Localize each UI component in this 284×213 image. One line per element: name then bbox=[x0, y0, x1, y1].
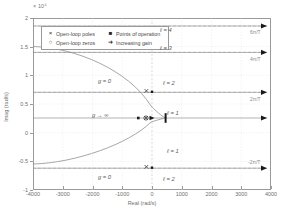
square-icon: ■ bbox=[105, 29, 116, 38]
legend-entry-open-loop-zeros: ○ Open-loop zeros bbox=[45, 38, 105, 47]
annotation-gain-zero-upper: g = 0 bbox=[98, 78, 111, 84]
annotation-gain-infinity: g → ∞ bbox=[92, 112, 108, 118]
annotation-l-equals-3: ℓ = 3 bbox=[160, 45, 172, 51]
legend-label: Points of operation bbox=[116, 31, 160, 37]
x-tick-label: 3000 bbox=[235, 191, 247, 197]
y-tick bbox=[30, 161, 33, 162]
operating-point-square bbox=[137, 117, 140, 120]
y-axis-title: Imag (rad/s) bbox=[3, 77, 9, 137]
increasing-gain-arrowheads bbox=[261, 23, 267, 170]
x-tick-label: -1000 bbox=[115, 191, 129, 197]
y-tick bbox=[30, 133, 33, 134]
y-tick-label: 1 bbox=[25, 72, 28, 78]
y-tick-label: 0 bbox=[25, 130, 28, 136]
annotation-l-equals-1-upper: ℓ = 1 bbox=[167, 110, 179, 116]
y-tick-label: -0.5 bbox=[19, 158, 28, 164]
arrow-right-icon: ➜ bbox=[105, 38, 116, 47]
edge-label-6pi-over-T: 6π/T bbox=[250, 29, 261, 35]
operating-point-square bbox=[151, 91, 153, 93]
x-tick-label: 2000 bbox=[205, 191, 217, 197]
x-tick bbox=[182, 186, 183, 189]
annotation-l-equals-4: ℓ = 4 bbox=[160, 27, 172, 33]
x-tick bbox=[33, 186, 34, 189]
x-tick bbox=[212, 186, 213, 189]
legend-row: × Open-loop poles ■ Points of operation bbox=[45, 29, 165, 38]
x-tick bbox=[241, 186, 242, 189]
x-tick bbox=[271, 186, 272, 189]
x-tick-label: 0 bbox=[150, 191, 153, 197]
legend: × Open-loop poles ■ Points of operation … bbox=[41, 26, 169, 50]
edge-label-2pi-over-T: 2π/T bbox=[250, 96, 261, 102]
legend-label: Open-loop zeros bbox=[56, 40, 95, 46]
y-tick bbox=[30, 75, 33, 76]
operating-point-square bbox=[151, 167, 153, 169]
x-tick-label: -2000 bbox=[85, 191, 99, 197]
legend-label: Open-loop poles bbox=[56, 31, 95, 37]
edge-label-minus-2pi-over-T: -2π/T bbox=[248, 159, 260, 165]
y-tick bbox=[30, 104, 33, 105]
y-tick-label: 2 bbox=[25, 15, 28, 21]
x-tick-label: -4000 bbox=[26, 191, 40, 197]
x-axis-title: Real (rad/s) bbox=[0, 200, 284, 206]
y-tick bbox=[30, 18, 33, 19]
x-tick bbox=[93, 186, 94, 189]
x-tick-label: 1000 bbox=[176, 191, 188, 197]
x-tick-label: -3000 bbox=[56, 191, 70, 197]
annotation-l-equals-1-lower: ℓ = 1 bbox=[167, 148, 179, 154]
y-tick-label: 0.5 bbox=[20, 101, 28, 107]
annotation-gain-zero-lower: g = 0 bbox=[98, 174, 111, 180]
x-tick bbox=[122, 186, 123, 189]
legend-label: Increasing gain bbox=[116, 40, 152, 46]
x-tick-label: 4000 bbox=[265, 191, 277, 197]
y-tick-label: -1 bbox=[23, 187, 28, 193]
legend-entry-open-loop-poles: × Open-loop poles bbox=[45, 29, 105, 38]
annotation-l-equals-2-upper: ℓ = 2 bbox=[163, 80, 175, 86]
legend-entry-increasing-gain: ➜ Increasing gain bbox=[105, 38, 165, 47]
edge-label-4pi-over-T: 4π/T bbox=[250, 56, 261, 62]
locus-branch-lower bbox=[33, 118, 166, 164]
x-tick bbox=[152, 186, 153, 189]
y-tick-label: 1.5 bbox=[20, 44, 28, 50]
cross-icon: × bbox=[45, 29, 56, 38]
y-tick bbox=[30, 190, 33, 191]
circle-icon: ○ bbox=[45, 38, 56, 47]
legend-row: ○ Open-loop zeros ➜ Increasing gain bbox=[45, 38, 165, 47]
y-axis-exponent-label: × 10⁴ bbox=[33, 3, 47, 9]
y-tick bbox=[30, 47, 33, 48]
legend-entry-points-of-operation: ■ Points of operation bbox=[105, 29, 165, 38]
x-tick bbox=[63, 186, 64, 189]
annotation-l-equals-2-lower: ℓ = 2 bbox=[163, 176, 175, 182]
root-locus-figure: × 10⁴ bbox=[0, 0, 284, 213]
